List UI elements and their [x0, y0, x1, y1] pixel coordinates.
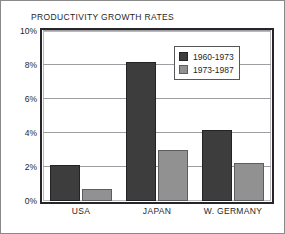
x-axis-tick-label: USA — [72, 206, 90, 216]
y-axis-tick-label: 0% — [5, 196, 37, 206]
bar — [50, 165, 80, 201]
legend-label: 1960-1973 — [193, 52, 234, 62]
y-axis-tick-label: 8% — [5, 60, 37, 70]
chart-legend: 1960-19731973-1987 — [174, 46, 240, 80]
y-axis-tick-label: 10% — [5, 26, 37, 36]
chart-figure: PRODUCTIVITY GROWTH RATES 0%2%4%6%8%10% … — [0, 0, 285, 234]
gridline — [43, 98, 271, 99]
gridline — [43, 132, 271, 133]
x-axis-tick-label: W. GERMANY — [204, 206, 262, 216]
y-axis-tick-labels: 0%2%4%6%8%10% — [1, 31, 37, 201]
bar — [126, 62, 156, 201]
chart-title: PRODUCTIVITY GROWTH RATES — [31, 12, 174, 22]
x-axis-tick-labels: USAJAPANW. GERMANY — [43, 206, 271, 222]
legend-swatch-icon — [179, 52, 188, 61]
legend-item: 1973-1987 — [179, 63, 234, 76]
y-axis-tick-label: 2% — [5, 162, 37, 172]
y-axis-tick-label: 4% — [5, 128, 37, 138]
bar — [234, 163, 264, 201]
bar — [158, 150, 188, 201]
x-axis-tick-label: JAPAN — [143, 206, 171, 216]
bar — [82, 189, 112, 201]
y-axis-tick-label: 6% — [5, 94, 37, 104]
legend-label: 1973-1987 — [193, 65, 234, 75]
legend-swatch-icon — [179, 65, 188, 74]
gridline — [43, 30, 271, 31]
legend-item: 1960-1973 — [179, 50, 234, 63]
bar — [202, 130, 232, 201]
